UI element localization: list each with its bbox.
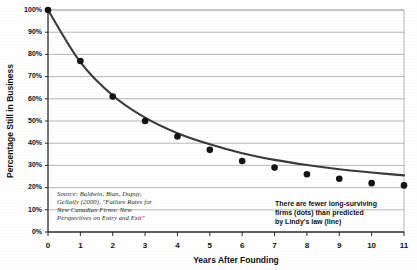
- data-point-dot: [109, 93, 116, 100]
- y-tick-label: 80%: [28, 50, 43, 57]
- data-point-dot: [239, 158, 246, 165]
- y-tick-label: 20%: [28, 183, 43, 190]
- lindy-callout-line: by Lindy's law (line): [275, 217, 415, 226]
- x-tick-label: 9: [337, 241, 342, 250]
- x-tick-label: 7: [272, 241, 277, 250]
- data-point-dot: [207, 147, 214, 154]
- source-citation-line: Gellatly (2000), "Failure Rates for: [57, 198, 187, 206]
- y-tick-label: 40%: [28, 139, 43, 146]
- data-point-dot: [45, 7, 52, 14]
- chart-canvas: 0%10%20%30%40%50%60%70%80%90%100% 012345…: [0, 0, 417, 270]
- x-axis-title: Years After Founding: [193, 255, 279, 265]
- lindy-callout-annotation: There are fewer long-survivingfirms (dot…: [275, 199, 415, 227]
- x-tick-label: 3: [143, 241, 148, 250]
- x-tick-label: 2: [111, 241, 116, 250]
- y-tick-label: 10%: [28, 206, 43, 213]
- y-tick-label: 100%: [24, 6, 43, 13]
- y-tick-label: 0%: [32, 228, 43, 235]
- data-point-dot: [336, 175, 343, 182]
- x-tick-label: 8: [305, 241, 310, 250]
- y-tick-label: 60%: [28, 95, 43, 102]
- y-tick-label: 50%: [28, 117, 43, 124]
- x-tick-label: 5: [208, 241, 213, 250]
- y-tick-label: 90%: [28, 28, 43, 35]
- x-tick-label: 4: [175, 241, 180, 250]
- y-tick-label: 70%: [28, 72, 43, 79]
- x-tick-label: 0: [46, 241, 51, 250]
- x-tick-label: 6: [240, 241, 245, 250]
- chart-background: [0, 0, 417, 270]
- y-axis-title: Percentage Still in Business: [5, 64, 15, 178]
- data-point-dot: [304, 171, 311, 178]
- lindy-callout-line: firms (dots) than predicted: [275, 208, 415, 217]
- data-point-dot: [174, 133, 181, 140]
- source-citation-line: Perspectives on Entry and Exit": [57, 214, 187, 222]
- data-point-dot: [401, 182, 408, 189]
- source-citation-line: New Canadian Firms: New: [57, 206, 187, 214]
- y-tick-label: 30%: [28, 161, 43, 168]
- source-citation-line: Source: Baldwin, Bian, Dupuy,: [57, 190, 187, 198]
- data-point-dot: [142, 118, 149, 125]
- x-tick-label: 11: [400, 241, 409, 250]
- lindy-callout-line: There are fewer long-surviving: [275, 199, 415, 208]
- x-tick-label: 10: [367, 241, 376, 250]
- survival-chart: 0%10%20%30%40%50%60%70%80%90%100% 012345…: [0, 0, 417, 270]
- x-tick-label: 1: [78, 241, 83, 250]
- data-point-dot: [368, 180, 375, 187]
- data-point-dot: [271, 164, 278, 171]
- source-citation: Source: Baldwin, Bian, Dupuy,Gellatly (2…: [57, 190, 187, 222]
- data-point-dot: [77, 58, 84, 65]
